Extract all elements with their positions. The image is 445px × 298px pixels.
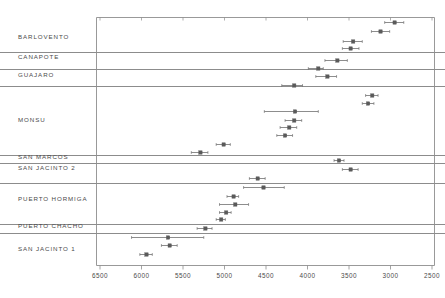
group-label-san-jacinto-1: SAN JACINTO 1 [18, 246, 76, 252]
data-point [249, 177, 265, 180]
data-point [334, 159, 344, 162]
marker [232, 195, 235, 198]
data-point [132, 236, 204, 239]
marker [224, 211, 227, 214]
plot-box [97, 18, 435, 266]
data-point [140, 253, 152, 256]
data-point [371, 30, 389, 33]
data-point [220, 211, 232, 214]
x-tick-label-7: 3000 [383, 273, 399, 279]
group-label-guajaro: GUAJARO [18, 72, 54, 78]
x-tick-label-1: 6000 [134, 273, 150, 279]
x-axis [97, 18, 435, 270]
x-tick-label-0: 6500 [92, 273, 108, 279]
data-points-layer [132, 21, 404, 256]
data-point [325, 59, 347, 62]
marker [326, 75, 329, 78]
data-point [342, 47, 359, 50]
group-label-san-jacinto-2: SAN JACINTO 2 [18, 165, 76, 171]
x-tick-label-3: 5000 [217, 273, 233, 279]
plot-frame [97, 18, 435, 266]
x-tick-label-2: 5500 [175, 273, 191, 279]
marker [256, 177, 259, 180]
data-point [220, 203, 249, 206]
chart-canvas [0, 0, 445, 298]
marker [371, 94, 374, 97]
data-point [216, 143, 230, 146]
marker [234, 203, 237, 206]
x-tick-label-6: 3500 [341, 273, 357, 279]
marker [293, 84, 296, 87]
group-label-puerto-chacho: PUERTO CHACHO [18, 223, 84, 229]
data-point [216, 218, 225, 221]
marker [379, 30, 382, 33]
x-tick-label-8: 2500 [424, 273, 440, 279]
data-point [277, 134, 293, 137]
data-point [244, 186, 285, 189]
marker [288, 126, 291, 129]
marker [283, 134, 286, 137]
marker [168, 244, 171, 247]
marker [222, 143, 225, 146]
data-point [285, 119, 302, 122]
data-point [264, 110, 318, 113]
data-point [316, 75, 337, 78]
marker [317, 67, 320, 70]
marker [349, 47, 352, 50]
marker [262, 186, 265, 189]
data-point [342, 168, 358, 171]
data-point [280, 126, 297, 129]
group-label-san-marcos: SAN MARCOS [18, 154, 69, 160]
data-point [366, 94, 378, 97]
data-point [161, 244, 177, 247]
marker [145, 253, 148, 256]
data-point [191, 151, 208, 154]
marker [336, 59, 339, 62]
marker [337, 159, 340, 162]
group-label-monsu: MONSU [18, 117, 46, 123]
data-point [385, 21, 404, 24]
x-tick-label-4: 4500 [258, 273, 274, 279]
marker [393, 21, 396, 24]
marker [351, 40, 354, 43]
data-point [197, 227, 212, 230]
marker [199, 151, 202, 154]
data-point [362, 102, 374, 105]
marker [219, 218, 222, 221]
marker [166, 236, 169, 239]
marker [204, 227, 207, 230]
group-label-canapote: CANAPOTE [18, 54, 59, 60]
group-label-barlovento: BARLOVENTO [18, 34, 69, 40]
marker [293, 119, 296, 122]
radiocarbon-forest-plot: BARLOVENTOCANAPOTEGUAJAROMONSUSAN MARCOS… [0, 0, 445, 298]
marker [349, 168, 352, 171]
marker [366, 102, 369, 105]
marker [293, 110, 296, 113]
data-point [343, 40, 362, 43]
x-tick-label-5: 4000 [300, 273, 316, 279]
group-label-puerto-hormiga: PUERTO HORMIGA [18, 196, 87, 202]
data-point [227, 195, 239, 198]
